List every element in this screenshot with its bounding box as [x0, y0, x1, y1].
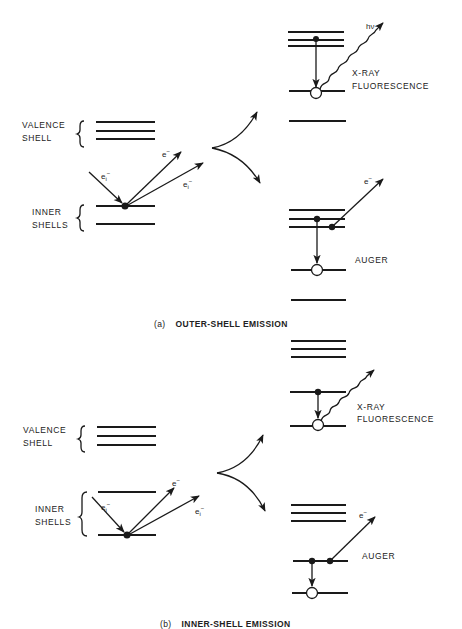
inner-shells-label-line2: SHELLS: [35, 517, 71, 527]
vacancy-circle: [311, 88, 322, 99]
incident-electron-label: ei−: [101, 501, 111, 513]
ejected-electron-label: e−: [172, 477, 180, 488]
auger-electron-label: e−: [364, 175, 372, 186]
auger-label: AUGER: [355, 255, 388, 265]
inner-shells-label-line1: INNER: [32, 207, 61, 217]
electron-dot: [314, 216, 320, 222]
valence-shell-label-line2: SHELL: [22, 133, 52, 143]
valence-shell-label-line1: VALENCE: [22, 120, 65, 130]
valence-levels: [96, 122, 155, 139]
auger-electron-arrow: [334, 179, 383, 225]
panel-b: VALENCE SHELL INNER SHELLS ei− e− ei−: [23, 341, 434, 629]
xray-label: X-RAY: [352, 68, 380, 78]
ejected-electron-arrow: [129, 488, 174, 533]
fluorescence-label: FLUORESCENCE: [357, 414, 434, 424]
valence-levels: [97, 427, 156, 445]
electron-dot: [309, 558, 315, 564]
photon-label: hν: [366, 22, 374, 31]
caption-b: (b)INNER-SHELL EMISSION: [160, 619, 291, 629]
inner-brace-icon: [79, 492, 87, 536]
auger-b: e− AUGER: [291, 505, 395, 599]
fork-arrow-down: [217, 473, 265, 511]
ejected-electron-label: e−: [162, 148, 170, 159]
ejected-electron-arrow: [127, 152, 181, 204]
fork-arrow-down: [212, 148, 260, 183]
xray-fluorescence-a: hν X-RAY FLUORESCENCE: [288, 22, 429, 121]
inner-shells-label-line2: SHELLS: [32, 220, 68, 230]
xray-fluorescence-b: X-RAY FLUORESCENCE: [290, 341, 434, 431]
scattered-electron-label: ei−: [195, 505, 205, 517]
valence-brace-icon: [78, 426, 85, 452]
xray-label: X-RAY: [357, 402, 385, 412]
fork-arrow-up: [217, 435, 263, 473]
valence-shell-label-line2: SHELL: [23, 438, 53, 448]
incident-electron-label: ei−: [101, 170, 111, 182]
electron-dot: [315, 389, 321, 395]
auger-a: e− AUGER: [289, 175, 388, 300]
panel-a: VALENCE SHELL INNER SHELLS ei− e− ei−: [22, 22, 429, 329]
vacancy-circle: [307, 588, 318, 599]
electron-emission-diagram: VALENCE SHELL INNER SHELLS ei− e− ei−: [0, 0, 462, 629]
inner-shells-label-line1: INNER: [35, 504, 64, 514]
valence-shell-label-line1: VALENCE: [23, 425, 66, 435]
caption-a: (a)OUTER-SHELL EMISSION: [154, 319, 288, 329]
vacancy-circle: [312, 265, 323, 276]
valence-brace-icon: [77, 121, 84, 147]
scattered-electron-arrow: [128, 163, 203, 205]
fork-arrow-up: [212, 112, 257, 148]
scattered-electron-label: ei−: [183, 178, 193, 190]
auger-label: AUGER: [362, 551, 395, 561]
scattered-electron-arrow: [130, 496, 199, 534]
auger-electron-label: e−: [359, 509, 367, 520]
vacancy-circle: [313, 420, 324, 431]
inner-brace-icon: [77, 205, 84, 231]
fluorescence-label: FLUORESCENCE: [352, 81, 429, 91]
